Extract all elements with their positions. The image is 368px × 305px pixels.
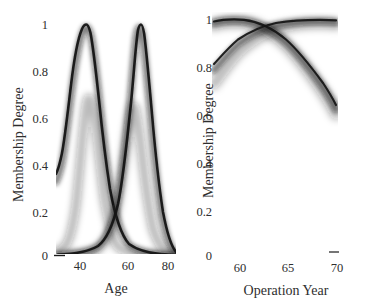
x-tick-label-70: 70 bbox=[323, 262, 351, 275]
x-tick-label-80: 80 bbox=[154, 260, 182, 273]
fuzzy-membership-figure: 1 0.8 0.6 0.4 0.2 0 40 60 80 Age Members… bbox=[0, 0, 368, 305]
y-axis-title: Membership Degree bbox=[12, 87, 26, 202]
x-axis-title: Operation Year bbox=[231, 284, 341, 298]
y-tick-label-1: 1 bbox=[182, 14, 212, 27]
y-tick-label-0-2: 0.2 bbox=[10, 207, 48, 220]
y-axis-title: Membership Degree bbox=[202, 83, 216, 198]
y-tick-label-0-8: 0.8 bbox=[174, 62, 212, 75]
y-tick-label-0-8: 0.8 bbox=[10, 66, 48, 79]
x-tick-label-65: 65 bbox=[274, 262, 302, 275]
y-tick-label-0: 0 bbox=[182, 250, 212, 263]
y-tick-label-0-2: 0.2 bbox=[174, 206, 212, 219]
x-tick-label-40: 40 bbox=[66, 260, 94, 273]
y-tick-label-1: 1 bbox=[18, 19, 48, 32]
x-tick-label-60: 60 bbox=[226, 262, 254, 275]
x-axis-title: Age bbox=[86, 282, 146, 296]
age-membership-panel: 1 0.8 0.6 0.4 0.2 0 40 60 80 Age Members… bbox=[0, 0, 186, 305]
x-tick-label-60: 60 bbox=[114, 260, 142, 273]
operation-year-membership-panel: 1 0.8 0.6 0.4 0.2 0 60 65 70 Operation Y… bbox=[186, 0, 368, 305]
y-tick-label-0: 0 bbox=[18, 250, 48, 263]
